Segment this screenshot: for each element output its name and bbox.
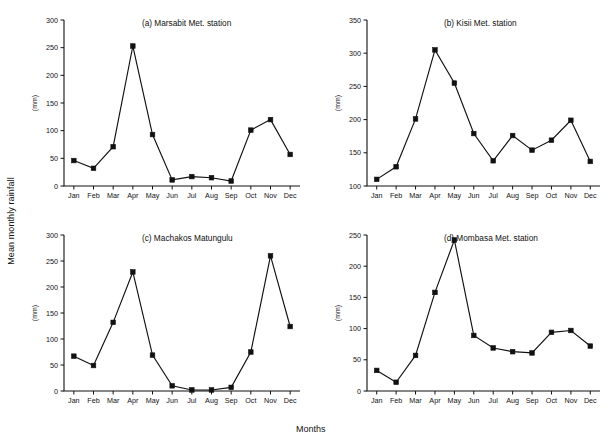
chart-svg-b: 100150200250300350JanFebMarAprMayJunJulA…: [325, 6, 610, 216]
svg-text:Apr: Apr: [429, 191, 441, 200]
chart-panel-d: 050100150200250JanFebMarAprMayJunJulAugS…: [325, 221, 610, 421]
figure-x-axis-label-text: Months: [296, 424, 326, 434]
svg-text:Apr: Apr: [127, 396, 139, 405]
svg-text:Oct: Oct: [245, 191, 256, 200]
data-point: [190, 388, 195, 393]
svg-text:Jun: Jun: [468, 191, 480, 200]
svg-text:Aug: Aug: [205, 191, 218, 200]
svg-text:100: 100: [46, 335, 58, 344]
data-point: [170, 178, 175, 183]
chart-axes-c: [64, 235, 300, 391]
chart-svg-c: 050100150200250300JanFebMarAprMayJunJulA…: [22, 221, 310, 421]
svg-text:Sep: Sep: [225, 191, 238, 200]
chart-title-b: (b) Kisii Met. station: [444, 18, 517, 28]
series-markers-a: [72, 44, 293, 184]
data-point: [150, 353, 155, 358]
data-point: [288, 324, 293, 329]
svg-text:Feb: Feb: [87, 191, 99, 200]
data-point: [111, 144, 116, 149]
svg-text:150: 150: [349, 148, 361, 157]
chart-panel-b: 100150200250300350JanFebMarAprMayJunJulA…: [325, 6, 610, 216]
svg-text:Feb: Feb: [390, 191, 402, 200]
svg-text:350: 350: [349, 16, 361, 25]
data-point: [72, 158, 77, 163]
data-point: [170, 384, 175, 389]
svg-text:May: May: [448, 396, 462, 405]
svg-text:Aug: Aug: [506, 191, 519, 200]
data-point: [91, 363, 96, 368]
svg-text:Dec: Dec: [284, 191, 297, 200]
rainfall-figure: Mean monthly rainfall Months 05010015020…: [0, 0, 613, 442]
svg-text:Jun: Jun: [468, 396, 480, 405]
svg-text:100: 100: [349, 182, 361, 191]
svg-text:May: May: [146, 191, 160, 200]
data-point: [549, 330, 554, 335]
data-point: [549, 138, 554, 143]
data-point: [374, 368, 379, 373]
data-point: [131, 44, 136, 49]
data-point: [433, 290, 438, 295]
svg-text:150: 150: [349, 293, 361, 302]
chart-y-ticks-a: 050100150200250300: [46, 16, 64, 191]
data-point: [588, 159, 593, 164]
data-point: [249, 128, 254, 133]
svg-text:May: May: [146, 396, 160, 405]
chart-title-d: (d) Mombasa Met. station: [444, 233, 538, 243]
svg-text:300: 300: [46, 16, 58, 25]
data-point: [131, 270, 136, 275]
chart-panel-a: 050100150200250300JanFebMarAprMayJunJulA…: [22, 6, 310, 216]
data-point: [433, 48, 438, 53]
svg-text:Feb: Feb: [390, 396, 402, 405]
data-point: [91, 166, 96, 171]
chart-title-a: (a) Marsabit Met. station: [142, 18, 232, 28]
data-point: [229, 179, 234, 184]
svg-text:Jan: Jan: [371, 191, 383, 200]
svg-text:50: 50: [50, 361, 58, 370]
svg-text:150: 150: [46, 309, 58, 318]
svg-text:0: 0: [357, 387, 361, 396]
chart-x-ticks-d: JanFebMarAprMayJunJulAugSepOctNovDec: [371, 391, 597, 405]
svg-text:50: 50: [50, 154, 58, 163]
svg-text:250: 250: [46, 257, 58, 266]
data-point: [569, 328, 574, 333]
svg-text:Nov: Nov: [264, 396, 277, 405]
series-line-d: [377, 240, 591, 382]
svg-text:250: 250: [349, 231, 361, 240]
svg-text:100: 100: [46, 126, 58, 135]
figure-x-axis-label: Months: [296, 424, 326, 434]
svg-text:Jun: Jun: [166, 396, 178, 405]
svg-text:200: 200: [349, 262, 361, 271]
svg-text:Aug: Aug: [506, 396, 519, 405]
svg-text:300: 300: [46, 231, 58, 240]
data-point: [111, 320, 116, 325]
svg-text:Mar: Mar: [107, 396, 120, 405]
chart-x-ticks-a: JanFebMarAprMayJunJulAugSepOctNovDec: [68, 186, 297, 200]
chart-y-ticks-b: 100150200250300350: [349, 16, 367, 191]
series-line-b: [377, 50, 591, 179]
svg-text:Nov: Nov: [264, 191, 277, 200]
svg-text:Jul: Jul: [187, 191, 197, 200]
data-point: [268, 254, 273, 259]
chart-x-ticks-c: JanFebMarAprMayJunJulAugSepOctNovDec: [68, 391, 297, 405]
data-point: [530, 148, 535, 153]
chart-panel-c: 050100150200250300JanFebMarAprMayJunJulA…: [22, 221, 310, 421]
chart-y-unit-a: (mm): [31, 95, 39, 111]
data-point: [471, 333, 476, 338]
chart-svg-d: 050100150200250JanFebMarAprMayJunJulAugS…: [325, 221, 610, 421]
data-point: [150, 132, 155, 137]
svg-text:Jul: Jul: [489, 396, 499, 405]
data-point: [249, 350, 254, 355]
svg-text:200: 200: [46, 71, 58, 80]
svg-text:150: 150: [46, 99, 58, 108]
chart-axes-b: [367, 20, 600, 186]
chart-title-c: (c) Machakos Matungulu: [142, 233, 233, 243]
series-markers-c: [72, 254, 293, 393]
svg-text:Jul: Jul: [489, 191, 499, 200]
svg-text:Sep: Sep: [225, 396, 238, 405]
data-point: [268, 117, 273, 122]
data-point: [374, 177, 379, 182]
data-point: [394, 164, 399, 169]
svg-text:Nov: Nov: [564, 191, 577, 200]
svg-text:Jun: Jun: [166, 191, 178, 200]
series-markers-d: [374, 238, 592, 385]
